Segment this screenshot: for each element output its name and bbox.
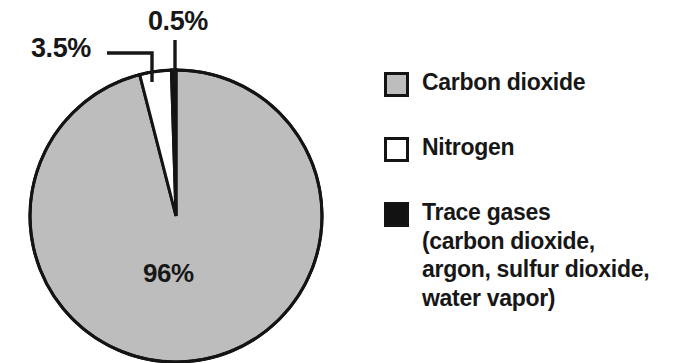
slice-label-nitrogen-percent: 3.5% (31, 33, 91, 64)
legend-item-trace-gases[interactable]: Trace gases (carbon dioxide, argon, sulf… (384, 198, 679, 312)
legend-label-trace-gases-block: Trace gases (carbon dioxide, argon, sulf… (422, 198, 649, 312)
slice-label-trace-gases-percent: 0.5% (148, 6, 208, 37)
legend-swatch-gray-icon (384, 72, 409, 97)
legend-item-carbon-dioxide[interactable]: Carbon dioxide (384, 68, 679, 97)
legend-label-carbon-dioxide: Carbon dioxide (422, 68, 585, 97)
legend-detail-trace-gases-line1: (carbon dioxide, (422, 227, 649, 256)
chart-legend: Carbon dioxide Nitrogen Trace gases (car… (384, 68, 679, 312)
pie-chart-figure: 3.5% 0.5% 96% Carbon dioxide Nitrogen Tr… (0, 0, 683, 363)
legend-label-nitrogen: Nitrogen (422, 133, 514, 162)
legend-label-trace-gases: Trace gases (422, 198, 649, 227)
legend-swatch-white-icon (384, 137, 409, 162)
legend-detail-trace-gases-line2: argon, sulfur dioxide, (422, 255, 649, 284)
legend-item-nitrogen[interactable]: Nitrogen (384, 133, 679, 162)
legend-swatch-black-icon (384, 202, 409, 227)
slice-label-carbon-dioxide-percent: 96% (143, 258, 194, 289)
legend-detail-trace-gases-line3: water vapor) (422, 284, 649, 313)
